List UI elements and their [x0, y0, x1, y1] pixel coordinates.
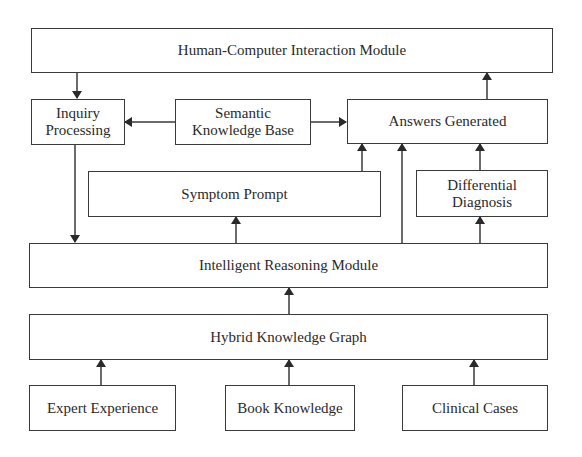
node-label: Hybrid Knowledge Graph [210, 329, 367, 346]
node-label: Intelligent Reasoning Module [199, 257, 378, 274]
node-hci-module: Human-Computer Interaction Module [31, 28, 553, 73]
node-label: Symptom Prompt [181, 186, 287, 203]
node-hybrid-knowledge-graph: Hybrid Knowledge Graph [29, 314, 548, 360]
node-inquiry-processing: Inquiry Processing [31, 99, 125, 145]
node-answers-generated: Answers Generated [347, 99, 548, 144]
node-label: Answers Generated [389, 113, 507, 130]
node-expert-experience: Expert Experience [29, 385, 176, 431]
node-label: Semantic Knowledge Base [192, 105, 294, 139]
node-differential-diagnosis: Differential Diagnosis [416, 170, 548, 217]
node-book-knowledge: Book Knowledge [225, 385, 355, 431]
node-intelligent-reasoning-module: Intelligent Reasoning Module [29, 243, 548, 288]
node-semantic-knowledge-base: Semantic Knowledge Base [175, 99, 311, 145]
node-label: Differential Diagnosis [447, 177, 517, 211]
node-symptom-prompt: Symptom Prompt [88, 171, 381, 217]
node-label: Clinical Cases [432, 400, 518, 417]
node-label: Expert Experience [47, 400, 158, 417]
node-label: Human-Computer Interaction Module [178, 42, 406, 59]
node-label: Book Knowledge [237, 400, 342, 417]
system-architecture-diagram: Human-Computer Interaction Module Inquir… [0, 0, 582, 457]
node-label: Inquiry Processing [46, 105, 111, 139]
node-clinical-cases: Clinical Cases [402, 385, 548, 431]
